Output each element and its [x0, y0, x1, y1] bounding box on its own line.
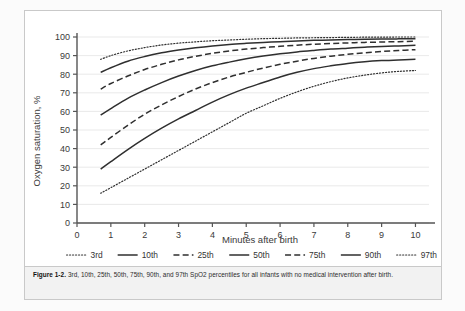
x-tick-label: 2	[142, 230, 147, 240]
y-tick-label: 80	[60, 70, 70, 80]
figure-caption-box: Figure 1-2. 3rd, 10th, 25th, 50th, 75th,…	[25, 267, 441, 299]
page-background: 0102030405060708090100 012345678910 Oxyg…	[0, 0, 465, 311]
x-axis-title: Minutes after birth	[222, 234, 298, 245]
figure-panel: 0102030405060708090100 012345678910 Oxyg…	[24, 10, 442, 300]
percentile-curve-25th	[101, 50, 416, 145]
plot-card: 0102030405060708090100 012345678910 Oxyg…	[25, 11, 441, 267]
figure-caption-body: 3rd, 10th, 25th, 50th, 75th, 90th, and 9…	[68, 271, 393, 278]
x-tick-label: 9	[379, 230, 384, 240]
y-tick-label: 70	[60, 88, 70, 98]
y-tick-labels-group: 0102030405060708090100	[55, 32, 77, 228]
legend-label-25th: 25th	[197, 250, 214, 260]
x-tick-label: 3	[176, 230, 181, 240]
x-tick-label: 7	[311, 230, 316, 240]
y-tick-label: 0	[65, 218, 70, 228]
legend-label-97th: 97th	[421, 250, 438, 260]
chart-legend: 3rd10th25th50th75th90th97th	[67, 250, 438, 260]
legend-label-50th: 50th	[253, 250, 270, 260]
x-tick-label: 8	[345, 230, 350, 240]
y-tick-label: 60	[60, 107, 70, 117]
oxygen-saturation-chart: 0102030405060708090100 012345678910 Oxyg…	[25, 11, 441, 267]
y-tick-label: 30	[60, 163, 70, 173]
percentile-curve-10th	[101, 59, 416, 169]
x-tick-label: 4	[210, 230, 215, 240]
percentile-curves-group	[101, 37, 416, 193]
y-tick-label: 10	[60, 200, 70, 210]
legend-label-10th: 10th	[142, 250, 159, 260]
y-tick-label: 40	[60, 144, 70, 154]
x-tick-label: 10	[410, 230, 420, 240]
y-tick-label: 100	[55, 32, 70, 42]
figure-caption-label: Figure 1-2.	[33, 271, 66, 278]
legend-label-75th: 75th	[309, 250, 326, 260]
x-tick-label: 0	[74, 230, 79, 240]
axes-group	[77, 33, 435, 223]
x-tick-label: 1	[108, 230, 113, 240]
gridlines-group	[77, 37, 429, 223]
legend-label-90th: 90th	[365, 250, 382, 260]
y-axis-title: Oxygen saturation, %	[31, 95, 42, 186]
legend-label-3rd: 3rd	[91, 250, 103, 260]
percentile-curve-75th	[101, 41, 416, 89]
y-tick-label: 90	[60, 51, 70, 61]
y-tick-label: 20	[60, 181, 70, 191]
y-tick-label: 50	[60, 125, 70, 135]
figure-caption: Figure 1-2. 3rd, 10th, 25th, 50th, 75th,…	[33, 271, 433, 280]
